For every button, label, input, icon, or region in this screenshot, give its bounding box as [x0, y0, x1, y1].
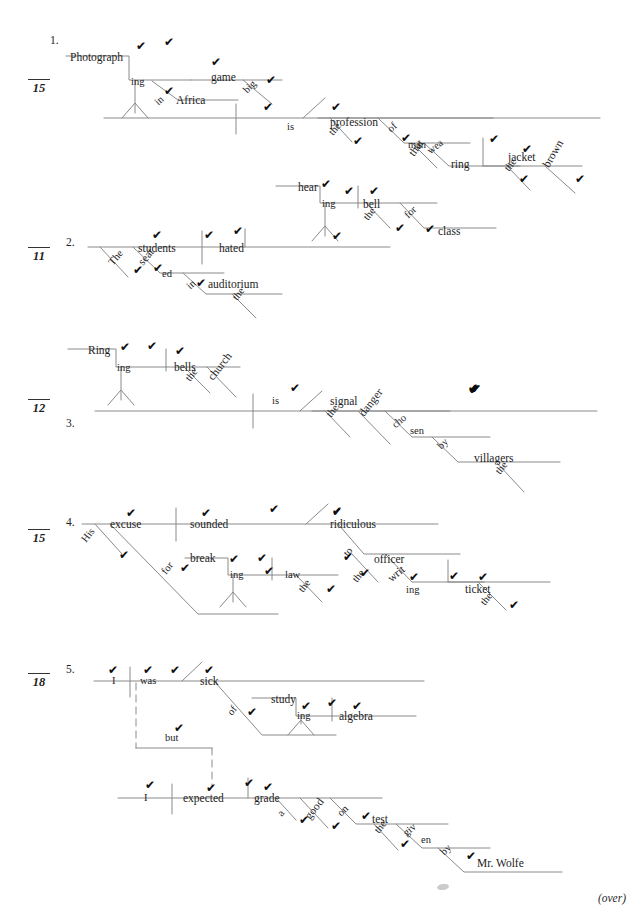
checkmark-icon: ✔	[466, 850, 476, 862]
checkmark-icon: ✔	[196, 277, 206, 289]
checkmark-icon: ✔	[360, 567, 370, 579]
score-value: 18	[33, 675, 46, 689]
checkmark-icon: ✔	[164, 85, 174, 97]
over-note: (over)	[598, 892, 626, 904]
checkmark-icon: ✔	[147, 340, 157, 352]
score-fraction-bar	[28, 79, 50, 80]
checkmark-icon: ✔	[153, 262, 163, 274]
checkmark-icon: ✔	[229, 553, 239, 565]
diagram-word: villagers	[474, 453, 514, 465]
checkmark-icon: ✔	[133, 264, 143, 276]
checkmark-icon: ✔	[509, 599, 519, 611]
diagram-word: Ring	[88, 345, 110, 357]
checkmark-icon: ✔	[489, 133, 499, 145]
diagram-word: study	[271, 694, 296, 706]
diagram-word: hated	[219, 243, 244, 255]
exercise-score: 15	[28, 78, 50, 96]
checkmark-icon: ✔	[332, 506, 342, 518]
checkmark-icon: ✔	[409, 571, 419, 583]
diagram-word: sen	[410, 426, 424, 437]
checkmark-icon: ✔	[152, 229, 162, 241]
checkmark-icon: ✔	[343, 551, 353, 563]
checkmark-icon: ✔	[326, 583, 336, 595]
exercise-number: 1.	[50, 34, 59, 46]
checkmark-icon: ✔	[269, 503, 279, 515]
checkmark-icon: ✔	[263, 101, 273, 113]
diagram-word: break	[190, 553, 216, 565]
exercise-number: 2.	[66, 236, 75, 248]
exercise-number: 5.	[66, 663, 75, 675]
diagram-word: ing	[117, 363, 130, 374]
checkmark-icon: ✔	[575, 173, 585, 185]
score-fraction-bar	[28, 673, 50, 674]
diagram-word: is	[287, 122, 294, 133]
checkmark-icon: ✔	[257, 552, 267, 564]
checkmark-icon: ✔	[478, 571, 488, 583]
checkmark-icon: ✔	[204, 664, 214, 676]
diagram-word: sounded	[190, 519, 228, 531]
checkmark-icon: ✔	[353, 135, 363, 147]
checkmark-icon: ✔	[327, 697, 337, 709]
checkmark-icon: ✔	[301, 700, 311, 712]
checkmark-icon: ✔	[263, 781, 273, 793]
exercise-score: 18	[28, 672, 50, 690]
checkmark-icon: ✔	[519, 173, 529, 185]
diagram-word: ridiculous	[330, 519, 376, 531]
exercise-score: 11	[28, 246, 50, 264]
diagram-word: law	[285, 570, 300, 581]
checkmark-icon: ✔	[369, 185, 379, 197]
checkmark-icon: ✔	[206, 782, 216, 794]
checkmark-icon: ✔	[266, 74, 276, 86]
diagram-word: ed	[162, 269, 172, 280]
checkmark-icon: ✔	[470, 383, 480, 395]
checkmark-icon: ✔	[361, 810, 371, 822]
diagram-word: ing	[406, 585, 419, 596]
diagram-word: is	[272, 396, 279, 407]
exercise-number: 4.	[66, 516, 75, 528]
sentence-diagram-lines	[0, 0, 640, 918]
checkmark-icon: ✔	[352, 700, 362, 712]
checkmark-icon: ✔	[299, 814, 309, 826]
checkmark-icon: ✔	[174, 722, 184, 734]
checkmark-icon: ✔	[332, 230, 342, 242]
diagram-word: Africa	[176, 95, 205, 107]
checkmark-icon: ✔	[331, 820, 341, 832]
checkmark-icon: ✔	[449, 570, 459, 582]
checkmark-icon: ✔	[201, 507, 211, 519]
exercise-score: 15	[28, 528, 50, 546]
checkmark-icon: ✔	[143, 664, 153, 676]
score-fraction-bar	[28, 399, 50, 400]
checkmark-icon: ✔	[180, 562, 190, 574]
checkmark-icon: ✔	[119, 549, 129, 561]
checkmark-icon: ✔	[247, 706, 257, 718]
checkmark-icon: ✔	[136, 40, 146, 52]
checkmark-icon: ✔	[233, 225, 243, 237]
checkmark-icon: ✔	[120, 341, 130, 353]
score-value: 15	[33, 531, 46, 545]
score-fraction-bar	[28, 247, 50, 248]
checkmark-icon: ✔	[175, 345, 185, 357]
checkmark-icon: ✔	[264, 565, 274, 577]
diagram-word: hear	[298, 182, 318, 194]
checkmark-icon: ✔	[211, 56, 221, 68]
checkmark-icon: ✔	[108, 664, 118, 676]
checkmark-icon: ✔	[164, 36, 174, 48]
checkmark-icon: ✔	[145, 779, 155, 791]
checkmark-icon: ✔	[126, 507, 136, 519]
score-value: 12	[33, 401, 46, 415]
diagram-word: game	[211, 72, 236, 84]
diagram-word: I	[112, 676, 116, 687]
diagram-word: I	[144, 793, 148, 804]
checkmark-icon: ✔	[170, 664, 180, 676]
diagram-word: ing	[131, 77, 144, 88]
diagram-word: excuse	[110, 519, 141, 531]
checkmark-icon: ✔	[321, 178, 331, 190]
checkmark-icon: ✔	[425, 223, 435, 235]
score-value: 15	[33, 81, 46, 95]
diagram-word: expected	[183, 793, 224, 805]
exercise-score: 12	[28, 398, 50, 416]
checkmark-icon: ✔	[401, 132, 411, 144]
checkmark-icon: ✔	[400, 838, 410, 850]
checkmark-icon: ✔	[244, 777, 254, 789]
diagram-word: grade	[254, 793, 280, 805]
